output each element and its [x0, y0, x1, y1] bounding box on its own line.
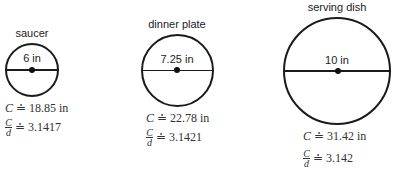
- ratio-value: 3.1417: [28, 120, 61, 135]
- approx-symbol: ≐: [15, 120, 25, 135]
- ratio-numerator: C: [5, 118, 12, 127]
- serving-dish-diameter-label: 10 in: [325, 54, 349, 66]
- circumference-value: 31.42 in: [327, 129, 366, 144]
- ratio-fraction: C d: [5, 118, 12, 137]
- circumference-value: 18.85 in: [29, 101, 68, 116]
- saucer-diameter-label: 6 in: [23, 52, 41, 64]
- circumference-symbol: C: [5, 101, 13, 116]
- dinner-plate-ratio: C d ≐ 3.1421: [146, 128, 202, 147]
- circumference-symbol: C: [303, 129, 311, 144]
- ratio-value: 3.142: [326, 151, 353, 166]
- dinner-plate-label: dinner plate: [148, 18, 206, 30]
- circumference-symbol: C: [146, 111, 154, 126]
- ratio-numerator: C: [146, 128, 153, 137]
- approx-symbol: ≐: [16, 101, 26, 116]
- serving-dish-label: serving dish: [308, 1, 367, 13]
- ratio-numerator: C: [303, 149, 310, 158]
- ratio-fraction: C d: [146, 128, 153, 147]
- ratio-denominator: d: [147, 138, 152, 147]
- approx-symbol: ≐: [157, 111, 167, 126]
- ratio-fraction: C d: [303, 149, 310, 168]
- approx-symbol: ≐: [314, 129, 324, 144]
- approx-symbol: ≐: [313, 151, 323, 166]
- saucer-center-dot: [29, 67, 35, 73]
- ratio-denominator: d: [304, 159, 309, 168]
- ratio-value: 3.1421: [169, 130, 202, 145]
- saucer-circumference: C ≐ 18.85 in: [5, 101, 68, 116]
- saucer-label: saucer: [15, 27, 48, 39]
- serving-dish-center-dot: [335, 68, 341, 74]
- saucer-ratio: C d ≐ 3.1417: [5, 118, 61, 137]
- circumference-value: 22.78 in: [170, 111, 209, 126]
- approx-symbol: ≐: [156, 130, 166, 145]
- dinner-plate-center-dot: [174, 67, 180, 73]
- ratio-denominator: d: [6, 128, 11, 137]
- dinner-plate-circumference: C ≐ 22.78 in: [146, 111, 209, 126]
- dinner-plate-diameter-label: 7.25 in: [160, 53, 193, 65]
- serving-dish-ratio: C d ≐ 3.142: [303, 149, 353, 168]
- serving-dish-circumference: C ≐ 31.42 in: [303, 129, 366, 144]
